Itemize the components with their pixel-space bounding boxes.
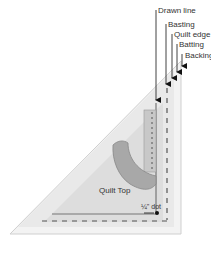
quarter-inch-dot-label: ¼" dot [141,203,161,210]
batting-label: Batting [179,40,204,49]
quarter-inch-dot [155,211,159,215]
quilt-edge-label: Quilt edge [174,30,211,39]
backing-label: Backing [185,51,211,60]
drawn-line-label: Drawn line [158,6,196,15]
basting-label: Basting [168,20,195,29]
stitched-strip [144,110,156,172]
quilt-corner-diagram: Quilt Top ¼" dot Drawn line Basting Quil… [0,0,211,253]
quilt-top-label: Quilt Top [99,186,131,195]
